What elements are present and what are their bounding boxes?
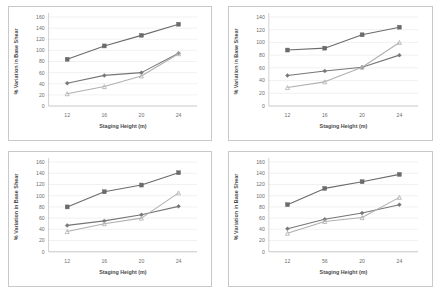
- chart-panel-bottom-left: 02040608010012014016012162024Staging Hei…: [0, 145, 220, 291]
- y-tick-label: 0: [42, 103, 45, 109]
- data-point-series-2: [177, 204, 181, 208]
- data-point-series-1: [102, 44, 106, 48]
- chart-bottom-right: 02040608010012014016012562024Staging Hei…: [229, 152, 432, 286]
- y-tick-label: 120: [36, 36, 45, 42]
- y-tick-label: 40: [259, 226, 265, 232]
- x-tick-label: 56: [322, 258, 328, 264]
- chart-border-top-right: 02040608010012014012162024Staging Height…: [228, 6, 433, 141]
- y-axis-title: % Variation in Base Shear: [233, 28, 239, 95]
- y-tick-label: 140: [256, 170, 265, 176]
- data-point-series-3: [177, 191, 181, 195]
- y-tick-label: 0: [42, 249, 45, 255]
- y-tick-label: 80: [259, 52, 265, 58]
- data-point-series-2: [397, 53, 401, 57]
- y-tick-label: 120: [36, 181, 45, 187]
- data-point-series-1: [285, 48, 289, 52]
- x-tick-label: 24: [176, 112, 182, 118]
- y-tick-label: 80: [259, 204, 265, 210]
- plot-area-top-left: 02040608010012014016012162024Staging Hei…: [9, 7, 211, 140]
- series-line-series-1: [67, 173, 178, 207]
- series-line-series-1: [287, 27, 399, 50]
- y-tick-label: 140: [36, 170, 45, 176]
- data-point-series-2: [65, 223, 69, 227]
- plot-area-bottom-left: 02040608010012014016012162024Staging Hei…: [9, 152, 211, 286]
- series-line-series-1: [287, 174, 399, 204]
- data-point-series-1: [323, 46, 327, 50]
- y-tick-label: 60: [259, 215, 265, 221]
- y-tick-label: 120: [256, 27, 265, 33]
- chart-panel-top-left: 02040608010012014016012162024Staging Hei…: [0, 0, 220, 145]
- y-tick-label: 100: [256, 39, 265, 45]
- chart-border-bottom-right: 02040608010012014016012562024Staging Hei…: [228, 151, 433, 287]
- data-point-series-3: [285, 231, 289, 235]
- y-tick-label: 160: [36, 14, 45, 20]
- x-axis-title: Staging Height (m): [320, 123, 368, 129]
- y-tick-label: 60: [259, 65, 265, 71]
- y-tick-label: 140: [36, 25, 45, 31]
- series-line-series-2: [67, 53, 178, 83]
- data-point-series-2: [323, 69, 327, 73]
- y-tick-label: 100: [36, 193, 45, 199]
- x-tick-label: 20: [359, 112, 365, 118]
- data-point-series-2: [285, 227, 289, 231]
- x-axis-title: Staging Height (m): [99, 123, 147, 129]
- x-tick-label: 24: [176, 258, 182, 264]
- x-tick-label: 20: [139, 258, 145, 264]
- chart-bottom-left: 02040608010012014016012162024Staging Hei…: [9, 152, 211, 286]
- y-tick-label: 60: [39, 70, 45, 76]
- y-axis-title: % Variation in Base Shear: [13, 28, 19, 94]
- data-point-series-2: [65, 81, 69, 85]
- data-point-series-2: [397, 203, 401, 207]
- data-point-series-1: [139, 33, 143, 37]
- y-tick-label: 40: [39, 226, 45, 232]
- data-point-series-1: [323, 186, 327, 190]
- data-point-series-1: [360, 180, 364, 184]
- y-tick-label: 0: [262, 103, 265, 109]
- y-tick-label: 80: [39, 58, 45, 64]
- x-tick-label: 24: [397, 112, 403, 118]
- y-tick-label: 100: [256, 193, 265, 199]
- chart-panel-bottom-right: 02040608010012014016012562024Staging Hei…: [220, 145, 441, 291]
- data-point-series-1: [177, 22, 181, 26]
- data-point-series-1: [65, 57, 69, 61]
- data-point-series-1: [397, 172, 401, 176]
- y-tick-label: 20: [39, 237, 45, 243]
- series-line-series-2: [287, 55, 399, 75]
- x-tick-label: 12: [285, 112, 291, 118]
- x-tick-label: 12: [64, 258, 70, 264]
- y-tick-label: 40: [259, 77, 265, 83]
- x-tick-label: 12: [64, 112, 70, 118]
- chart-top-left: 02040608010012014016012162024Staging Hei…: [9, 7, 211, 140]
- y-tick-label: 160: [256, 159, 265, 165]
- y-tick-label: 100: [36, 47, 45, 53]
- x-tick-label: 16: [101, 112, 107, 118]
- data-point-series-1: [139, 183, 143, 187]
- y-tick-label: 20: [39, 92, 45, 98]
- chart-top-right: 02040608010012014012162024Staging Height…: [229, 7, 432, 140]
- data-point-series-2: [102, 73, 106, 77]
- x-axis-title: Staging Height (m): [320, 269, 368, 275]
- plot-area-top-right: 02040608010012014012162024Staging Height…: [229, 7, 432, 140]
- data-point-series-2: [285, 73, 289, 77]
- y-tick-label: 60: [39, 215, 45, 221]
- y-axis-title: % Variation in Base Shear: [233, 173, 239, 241]
- data-point-series-3: [285, 86, 289, 90]
- data-point-series-1: [397, 25, 401, 29]
- data-point-series-3: [397, 195, 401, 199]
- y-tick-label: 80: [39, 204, 45, 210]
- data-point-series-1: [285, 203, 289, 207]
- series-line-series-3: [287, 197, 399, 233]
- y-tick-label: 20: [259, 237, 265, 243]
- y-tick-label: 140: [256, 14, 265, 20]
- chart-border-bottom-left: 02040608010012014016012162024Staging Hei…: [8, 151, 212, 287]
- series-line-series-1: [67, 24, 178, 59]
- x-tick-label: 16: [101, 258, 107, 264]
- data-point-series-1: [360, 33, 364, 37]
- chart-grid: 02040608010012014016012162024Staging Hei…: [0, 0, 441, 291]
- plot-area-bottom-right: 02040608010012014016012562024Staging Hei…: [229, 152, 432, 286]
- x-tick-label: 24: [397, 258, 403, 264]
- x-tick-label: 20: [359, 258, 365, 264]
- chart-panel-top-right: 02040608010012014012162024Staging Height…: [220, 0, 441, 145]
- data-point-series-1: [65, 205, 69, 209]
- y-axis-title: % Variation in Base Shear: [13, 173, 19, 241]
